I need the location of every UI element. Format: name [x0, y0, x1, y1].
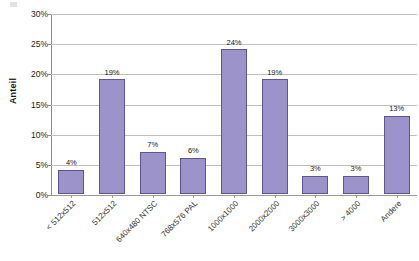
- bar-value-label: 24%: [226, 39, 241, 47]
- x-axis-label-slot: 3000x3000: [295, 196, 336, 261]
- y-axis-tick-label: 15%: [20, 100, 48, 109]
- bar-slot: 3%: [295, 14, 336, 195]
- bar-slot: 6%: [173, 14, 214, 195]
- bar-chart: Anteil 30%25%20%15%10%5%0% 4%19%7%6%24%1…: [0, 0, 419, 261]
- bar[interactable]: [343, 176, 369, 194]
- bar-value-label: 4%: [66, 159, 77, 167]
- bar-slot: 7%: [132, 14, 173, 195]
- x-axis-label-slot: > 4000: [336, 196, 377, 261]
- x-axis-label-slot: < 512x512: [51, 196, 92, 261]
- bar-value-label: 19%: [104, 69, 119, 77]
- x-axis-tick-label: 512x512: [90, 199, 118, 227]
- y-axis-tick-label: 0%: [20, 191, 48, 200]
- bar-value-label: 13%: [389, 105, 404, 113]
- x-axis-tick-label: > 4000: [339, 199, 363, 223]
- y-axis-tick-labels: 30%25%20%15%10%5%0%: [18, 0, 48, 261]
- bar[interactable]: [302, 176, 328, 194]
- bar-value-label: 3%: [310, 165, 321, 173]
- bar[interactable]: [140, 152, 166, 194]
- bar-slot: 19%: [92, 14, 133, 195]
- scan-artifact: [10, 2, 17, 7]
- bar-slot: 24%: [214, 14, 255, 195]
- bar[interactable]: [221, 49, 247, 194]
- x-axis-tick-labels: < 512x512512x512640x480 NTSC768x576 PAL1…: [51, 196, 417, 261]
- y-axis-tick-label: 10%: [20, 130, 48, 139]
- bar[interactable]: [384, 116, 410, 194]
- bar-value-label: 3%: [351, 165, 362, 173]
- x-axis-tick-label: Andere: [378, 199, 403, 224]
- y-axis-tick-label: 25%: [20, 40, 48, 49]
- bar-value-label: 7%: [147, 141, 158, 149]
- bar-slot: 3%: [336, 14, 377, 195]
- bar-value-label: 6%: [188, 147, 199, 155]
- y-axis-tick-label: 5%: [20, 161, 48, 170]
- bar[interactable]: [58, 170, 84, 194]
- x-axis-tick-label: < 512x512: [45, 199, 78, 232]
- bar-slot: 19%: [254, 14, 295, 195]
- plot-area: 4%19%7%6%24%19%3%3%13%: [51, 14, 417, 195]
- y-axis-tick-label: 30%: [20, 10, 48, 19]
- x-axis-label-slot: Andere: [376, 196, 417, 261]
- y-axis-title: Anteil: [8, 61, 18, 121]
- bar[interactable]: [262, 79, 288, 194]
- bar[interactable]: [99, 79, 125, 194]
- bar-value-label: 19%: [267, 69, 282, 77]
- bar[interactable]: [180, 158, 206, 194]
- y-axis-tick-label: 20%: [20, 70, 48, 79]
- bar-slot: 4%: [51, 14, 92, 195]
- bar-slot: 13%: [376, 14, 417, 195]
